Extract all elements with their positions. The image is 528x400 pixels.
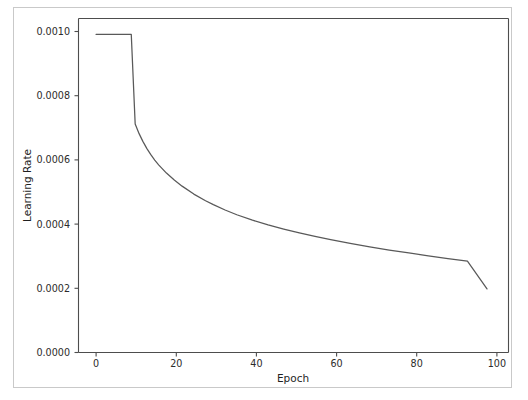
- y-tick-label-2: 0.0004: [36, 219, 70, 230]
- y-tick-label-5: 0.0010: [36, 26, 70, 37]
- y-tick-label-1: 0.0002: [36, 283, 70, 294]
- learning-rate-chart: 0.0000 0.0002 0.0004 0.0006 0.0008 0.001…: [0, 0, 528, 400]
- y-tick-label-0: 0.0000: [36, 347, 70, 358]
- y-axis-title: Learning Rate: [21, 149, 33, 222]
- y-tick-label-4: 0.0008: [36, 90, 70, 101]
- x-tick-label-1: 20: [170, 358, 182, 369]
- figure-root: 0.0000 0.0002 0.0004 0.0006 0.0008 0.001…: [0, 0, 528, 400]
- x-tick-label-0: 0: [93, 358, 99, 369]
- x-tick-label-2: 40: [250, 358, 262, 369]
- y-tick-marks: [75, 32, 79, 353]
- x-tick-label-5: 100: [488, 358, 506, 369]
- x-tick-marks: [96, 353, 497, 357]
- learning-rate-curve: [96, 34, 487, 288]
- x-tick-label-4: 80: [411, 358, 423, 369]
- x-tick-label-3: 60: [330, 358, 342, 369]
- x-axis-title: Epoch: [277, 372, 309, 384]
- y-tick-label-3: 0.0006: [36, 154, 70, 165]
